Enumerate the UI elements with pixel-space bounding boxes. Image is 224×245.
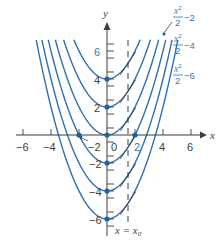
svg-text:−2: −2 [184, 12, 195, 23]
svg-text:x2: x2 [173, 63, 182, 74]
y-axis-arrow-icon [104, 22, 111, 30]
y-tick-label: −6 [89, 214, 102, 226]
y-tick-label: 4 [94, 74, 100, 86]
y-tick-label: −2 [89, 158, 102, 170]
x-tick-label: −6 [16, 141, 29, 153]
x-tick-label: 4 [159, 141, 165, 153]
marked-point [104, 160, 109, 165]
marked-point [132, 132, 137, 137]
y-tick-label: −4 [89, 186, 102, 198]
x-tick-label: −4 [43, 141, 56, 153]
x-tick-label: −2 [88, 141, 101, 153]
label-leader-line [164, 22, 172, 33]
x-tick-label: 0 [111, 141, 117, 153]
marked-point [76, 132, 81, 137]
x-tick-label: 6 [187, 141, 193, 153]
y-tick-label: 2 [94, 102, 100, 114]
svg-text:x2: x2 [173, 33, 182, 44]
y-axis-label: y [102, 7, 108, 19]
x-tick-label: 2 [134, 141, 140, 153]
parabola-family-chart: x y −6 −4 −2 0 2 4 6 6 4 2 −2 −4 −6 x = … [0, 0, 224, 245]
svg-text:2: 2 [175, 75, 180, 86]
marked-point [104, 216, 109, 221]
curve-label-minus-2: x2 2 −2 [162, 5, 194, 36]
svg-text:−6: −6 [184, 70, 195, 81]
x-axis-label: x [209, 129, 215, 141]
x-axis-arrow-icon [200, 132, 207, 139]
svg-text:x2: x2 [173, 5, 182, 16]
curve-label-minus-6: x2 2 −6 [173, 63, 195, 86]
marked-point [104, 104, 109, 109]
x0-line-label: x = x0 [114, 224, 142, 238]
y-tick-label: 6 [94, 46, 100, 58]
svg-text:2: 2 [175, 17, 180, 28]
marked-point [104, 132, 109, 137]
curve-label-minus-4: x2 2 −4 [173, 33, 195, 56]
marked-point [104, 188, 109, 193]
svg-text:2: 2 [175, 45, 180, 56]
svg-text:−4: −4 [184, 40, 195, 51]
marked-point [104, 76, 109, 81]
label-anchor-dot [162, 32, 165, 35]
